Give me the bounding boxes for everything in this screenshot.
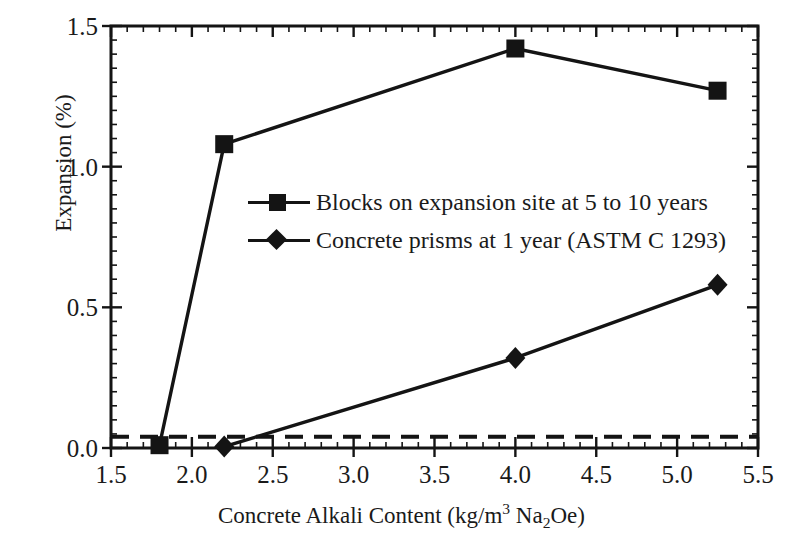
x-tick-label: 5.0 [662, 462, 693, 487]
x-tick-label: 3.0 [338, 462, 369, 487]
x-tick-label: 2.0 [176, 462, 207, 487]
x-tick-label: 3.5 [419, 462, 450, 487]
x-tick-label: 4.0 [500, 462, 531, 487]
x-tick-label: 5.5 [742, 462, 773, 487]
y-axis-title: Expansion (%) [51, 13, 77, 313]
y-tick-label: 0.0 [40, 436, 98, 461]
x-tick-label: 1.5 [95, 462, 126, 487]
x-axis-title-post: Oe) [550, 503, 584, 528]
legend-item-blocks: Blocks on expansion site at 5 to 10 year… [248, 183, 726, 221]
x-axis-title-superscript: 3 [502, 500, 510, 517]
legend-label-blocks: Blocks on expansion site at 5 to 10 year… [310, 189, 708, 216]
chart-figure: 0.00.51.01.5 1.52.02.53.03.54.04.55.05.5… [0, 0, 803, 550]
legend-marker-diamond-icon [248, 229, 310, 251]
legend-label-prisms: Concrete prisms at 1 year (ASTM C 1293) [310, 227, 726, 254]
chart-legend: Blocks on expansion site at 5 to 10 year… [248, 183, 726, 259]
legend-item-prisms: Concrete prisms at 1 year (ASTM C 1293) [248, 221, 726, 259]
x-axis-title-mid: Na [510, 503, 543, 528]
x-tick-label: 4.5 [581, 462, 612, 487]
x-tick-label: 2.5 [257, 462, 288, 487]
x-axis-title: Concrete Alkali Content (kg/m3 Na2Oe) [0, 500, 803, 532]
x-axis-title-pre: Concrete Alkali Content (kg/m [218, 503, 502, 528]
legend-marker-square-icon [248, 191, 310, 213]
